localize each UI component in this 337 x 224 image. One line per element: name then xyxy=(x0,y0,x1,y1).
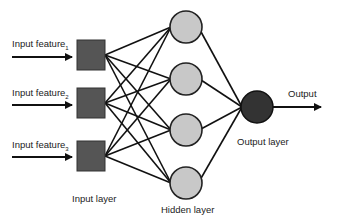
hidden-layer-nodes xyxy=(170,11,202,199)
input-node-3 xyxy=(77,141,105,171)
input-feature-2-label: Input feature2 xyxy=(12,87,69,100)
input-node-2 xyxy=(77,88,105,118)
output-node xyxy=(241,91,273,123)
hidden-output-connections xyxy=(200,30,242,180)
hidden-node-1 xyxy=(170,11,202,43)
hidden-layer-label: Hidden layer xyxy=(161,204,214,215)
input-layer-label: Input layer xyxy=(72,193,116,204)
output-layer-label: Output layer xyxy=(237,136,289,147)
neural-network-diagram: Input feature1 Input feature2 Input feat… xyxy=(0,0,337,224)
hidden-node-4 xyxy=(170,167,202,199)
input-feature-3-label: Input feature3 xyxy=(12,139,69,152)
hidden-node-2 xyxy=(170,63,202,95)
input-layer-nodes xyxy=(77,40,105,171)
hidden-node-3 xyxy=(170,114,202,146)
input-feature-1-label: Input feature1 xyxy=(12,38,69,51)
input-node-1 xyxy=(77,40,105,70)
input-hidden-connections xyxy=(105,27,171,183)
output-label: Output xyxy=(288,88,317,99)
